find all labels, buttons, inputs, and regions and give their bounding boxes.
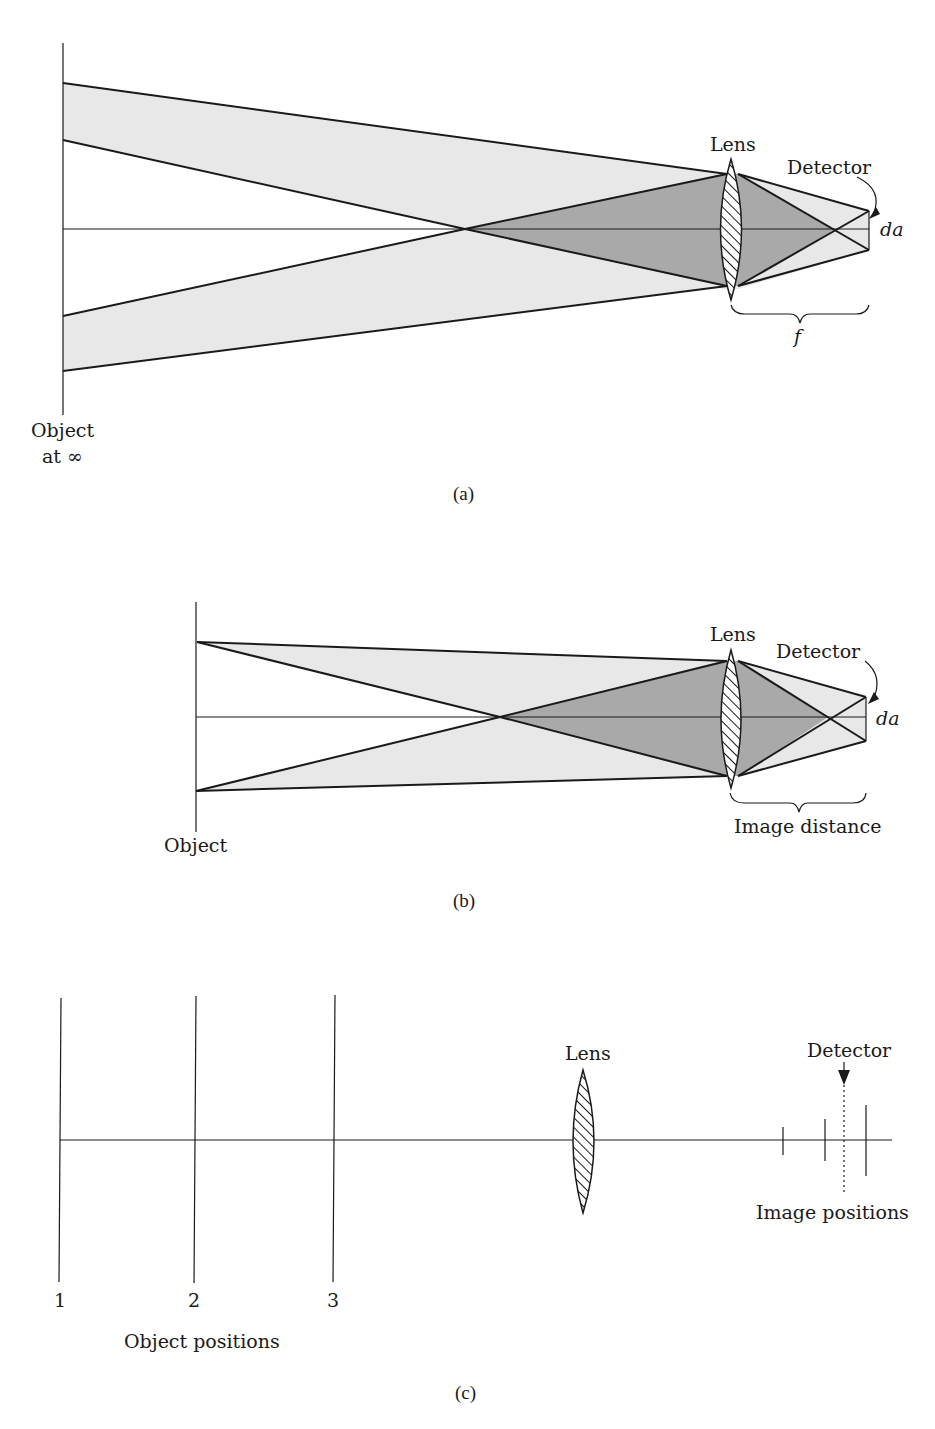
focal-length-brace [731, 305, 869, 323]
detector-label-c: Detector [807, 1039, 892, 1061]
caption-a: (a) [453, 483, 474, 505]
lens-label-c: Lens [565, 1042, 611, 1064]
detector-label-b: Detector [776, 640, 861, 662]
detector-label-a: Detector [787, 156, 872, 178]
focal-length-label: f [792, 325, 804, 347]
object-position-number-1: 1 [54, 1289, 66, 1311]
object-label-a-line1: Object [31, 419, 95, 441]
object-position-3 [333, 995, 335, 1282]
caption-c: (c) [455, 1382, 476, 1404]
image-positions-label: Image positions [756, 1201, 909, 1223]
object-positions-label: Object positions [124, 1330, 280, 1352]
image-distance-brace [730, 793, 866, 812]
optics-figure: Lens Detector da f Object at ∞ (a) Lens … [0, 0, 935, 1429]
object-position-number-3: 3 [327, 1289, 339, 1311]
lens-label-a: Lens [710, 133, 756, 155]
detector-size-label-b: da [876, 707, 900, 729]
object-label-b: Object [164, 834, 228, 856]
object-label-a-line2: at ∞ [42, 445, 83, 467]
caption-b: (b) [453, 890, 475, 912]
lens-c [573, 1070, 594, 1213]
detector-size-label-a: da [880, 218, 904, 240]
image-distance-label: Image distance [734, 815, 881, 837]
object-position-number-2: 2 [188, 1289, 200, 1311]
panel-c: Lens Detector Image positions 1 2 3 Obje… [54, 995, 909, 1404]
panel-b: Lens Detector da Image distance Object (… [164, 602, 900, 912]
panel-a: Lens Detector da f Object at ∞ (a) [31, 43, 904, 505]
lens-label-b: Lens [710, 623, 756, 645]
